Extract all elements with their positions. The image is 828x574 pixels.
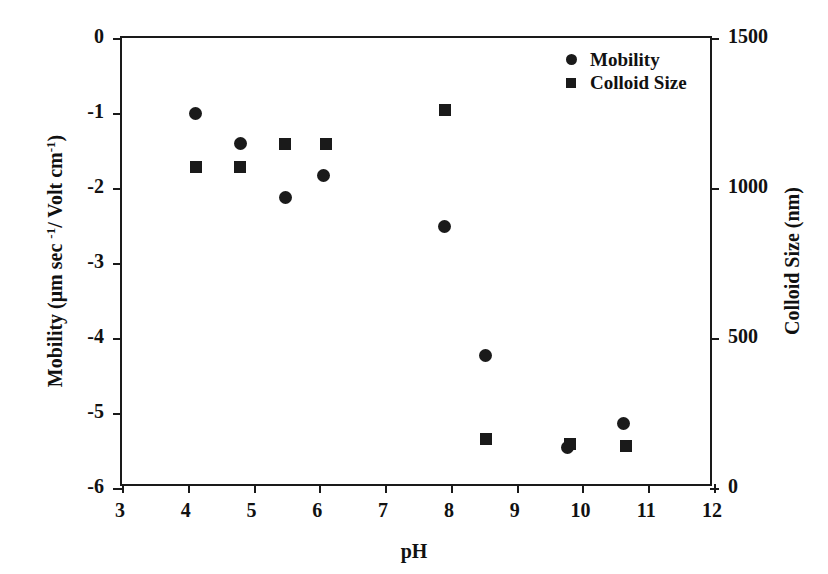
y-axis-right-tick <box>710 188 719 190</box>
y-axis-left-tick-label: -6 <box>0 476 104 496</box>
data-point-circle <box>279 191 292 204</box>
y-axis-left-tick <box>113 338 122 340</box>
y-axis-left-tick-label: -4 <box>0 326 104 346</box>
data-point-square <box>564 438 576 450</box>
y-axis-left-tick-label: -3 <box>0 251 104 271</box>
y-axis-left-tick <box>113 263 122 265</box>
data-point-circle <box>234 137 247 150</box>
x-axis-tick-label: 12 <box>702 500 722 520</box>
y-axis-left-tick <box>113 113 122 115</box>
data-point-square <box>190 161 202 173</box>
x-axis-tick <box>385 484 387 493</box>
legend-item: Mobility <box>566 48 687 71</box>
data-point-circle <box>189 107 202 120</box>
legend: MobilityColloid Size <box>566 48 687 94</box>
y-axis-left-tick-label: -5 <box>0 401 104 421</box>
x-axis-tick <box>714 484 716 493</box>
x-axis-tick <box>451 484 453 493</box>
x-axis-tick-label: 3 <box>115 500 125 520</box>
y-axis-right-tick-label: 1000 <box>728 176 768 196</box>
x-axis-tick-label: 7 <box>378 500 388 520</box>
x-axis-tick-label: 5 <box>247 500 257 520</box>
x-axis-tick-label: 4 <box>181 500 191 520</box>
x-axis-tick-label: 9 <box>510 500 520 520</box>
legend-marker-circle-icon <box>566 54 590 65</box>
y-axis-right-tick <box>710 338 719 340</box>
y-axis-left-tick <box>113 188 122 190</box>
x-axis-tick-label: 8 <box>444 500 454 520</box>
data-point-square <box>279 138 291 150</box>
x-axis-tick <box>582 484 584 493</box>
y-axis-right-title: Colloid Size (nm) <box>781 111 804 411</box>
legend-label: Colloid Size <box>590 72 687 94</box>
x-axis-tick <box>254 484 256 493</box>
x-axis-tick-label: 10 <box>570 500 590 520</box>
data-point-square <box>320 138 332 150</box>
x-axis-title: pH <box>401 540 428 563</box>
y-axis-right-tick-label: 1500 <box>728 26 768 46</box>
x-axis-tick-label: 11 <box>637 500 656 520</box>
plot-area <box>120 36 712 486</box>
y-axis-right-tick-label: 0 <box>728 476 738 496</box>
data-point-square <box>480 433 492 445</box>
x-axis-tick <box>122 484 124 493</box>
legend-item: Colloid Size <box>566 71 687 94</box>
x-axis-tick <box>517 484 519 493</box>
data-point-square <box>620 440 632 452</box>
y-axis-left-tick-label: 0 <box>0 26 104 46</box>
data-point-circle <box>438 220 451 233</box>
data-point-square <box>234 161 246 173</box>
y-axis-left-tick <box>113 488 122 490</box>
data-point-circle <box>479 349 492 362</box>
y-axis-left-tick-label: -1 <box>0 101 104 121</box>
x-axis-tick <box>648 484 650 493</box>
data-point-circle <box>317 169 330 182</box>
data-point-square <box>439 104 451 116</box>
legend-marker-square-icon <box>566 78 590 88</box>
data-point-circle <box>617 417 630 430</box>
y-axis-left-tick-label: -2 <box>0 176 104 196</box>
y-axis-left-tick <box>113 38 122 40</box>
chart-figure: Mobility (μm sec -1/ Volt cm-1) Colloid … <box>0 0 828 574</box>
y-axis-right-tick <box>710 38 719 40</box>
y-axis-right-tick-label: 500 <box>728 326 758 346</box>
y-axis-left-tick <box>113 413 122 415</box>
legend-label: Mobility <box>590 49 660 71</box>
x-axis-tick <box>188 484 190 493</box>
x-axis-tick-label: 6 <box>312 500 322 520</box>
x-axis-tick <box>319 484 321 493</box>
